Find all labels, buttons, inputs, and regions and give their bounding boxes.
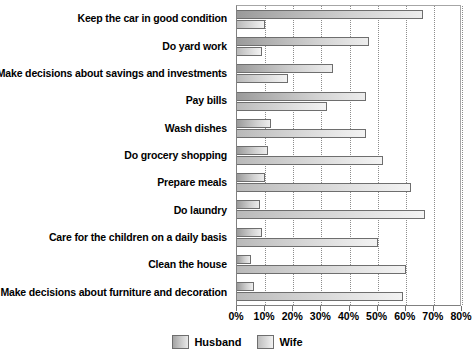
legend-item-husband[interactable]: Husband [172, 335, 241, 349]
bar-row [237, 115, 460, 142]
x-tick-label: 50% [366, 310, 387, 322]
gridline [462, 6, 463, 305]
bar-wife [237, 74, 288, 83]
bar-husband [237, 92, 366, 101]
legend-label: Wife [279, 336, 302, 348]
bar-husband [237, 200, 260, 209]
bar-row [237, 6, 460, 33]
bar-husband [237, 10, 423, 19]
chart-legend: HusbandWife [0, 331, 475, 353]
legend-item-wife[interactable]: Wife [257, 335, 302, 349]
category-label: Clean the house [0, 251, 232, 278]
x-tick-label: 80% [450, 310, 471, 322]
bar-chart: Keep the car in good conditionDo yard wo… [0, 0, 475, 355]
category-label: Make decisions about savings and investm… [0, 60, 232, 87]
x-axis-labels: 0%10%20%30%40%50%60%70%80% [0, 310, 475, 326]
bar-wife [237, 292, 403, 301]
bar-row [237, 60, 460, 87]
legend-swatch-husband [172, 335, 189, 349]
bar-wife [237, 47, 262, 56]
bar-husband [237, 282, 254, 291]
bar-row [237, 196, 460, 223]
x-tick-label: 20% [282, 310, 303, 322]
legend-swatch-wife [257, 335, 274, 349]
bar-row [237, 278, 460, 305]
bar-wife [237, 129, 366, 138]
category-label: Do laundry [0, 197, 232, 224]
bar-wife [237, 20, 265, 29]
bar-husband [237, 255, 251, 264]
bar-husband [237, 37, 369, 46]
category-axis-labels: Keep the car in good conditionDo yard wo… [0, 5, 232, 306]
bar-wife [237, 265, 406, 274]
category-label: Pay bills [0, 87, 232, 114]
category-label: Wash dishes [0, 114, 232, 141]
x-tick-label: 60% [394, 310, 415, 322]
legend-label: Husband [194, 336, 241, 348]
bar-wife [237, 238, 378, 247]
bar-row [237, 33, 460, 60]
category-label: Do yard work [0, 32, 232, 59]
x-tick-label: 0% [228, 310, 243, 322]
bar-row [237, 251, 460, 278]
x-tick-label: 30% [310, 310, 331, 322]
bar-wife [237, 183, 411, 192]
category-label: Do grocery shopping [0, 142, 232, 169]
bar-husband [237, 119, 271, 128]
x-tick-label: 70% [422, 310, 443, 322]
category-label: Make decisions about furniture and decor… [0, 279, 232, 306]
category-label: Prepare meals [0, 169, 232, 196]
bar-husband [237, 146, 268, 155]
bar-rows [237, 6, 460, 305]
x-tick-label: 40% [338, 310, 359, 322]
bar-husband [237, 228, 262, 237]
bar-wife [237, 156, 383, 165]
bar-husband [237, 64, 333, 73]
x-tick-label: 10% [254, 310, 275, 322]
category-label: Care for the children on a daily basis [0, 224, 232, 251]
bar-wife [237, 102, 327, 111]
bar-row [237, 142, 460, 169]
bar-row [237, 88, 460, 115]
bar-wife [237, 210, 425, 219]
bar-row [237, 169, 460, 196]
bar-row [237, 224, 460, 251]
plot-area [236, 5, 461, 306]
category-label: Keep the car in good condition [0, 5, 232, 32]
bar-husband [237, 173, 265, 182]
